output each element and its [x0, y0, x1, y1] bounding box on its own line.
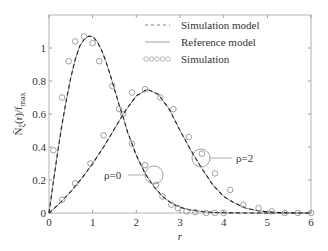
simulation-point — [212, 171, 218, 177]
y-tick-label: 0 — [41, 207, 47, 219]
annotation-rho0: ρ=0 — [104, 166, 163, 184]
simulation-point — [199, 151, 205, 157]
reference-curve — [49, 89, 311, 213]
plot-area: 012345600.20.40.60.81 — [32, 15, 314, 228]
simulation-point — [90, 40, 96, 46]
simulation-point — [59, 95, 65, 101]
simulation-point — [142, 162, 148, 168]
y-tick-label: 0.6 — [32, 108, 46, 120]
simulation-point — [186, 134, 192, 140]
simulation-model-curve — [49, 89, 311, 213]
x-tick-label: 2 — [134, 216, 140, 228]
x-tick-label: 1 — [90, 216, 96, 228]
simulation-point — [66, 58, 72, 64]
simulation-point — [59, 197, 65, 203]
simulation-point — [129, 90, 135, 96]
y-tick-label: 0.4 — [32, 141, 46, 153]
simulation-model-curve — [49, 36, 311, 213]
legend-simulation-marker — [144, 57, 170, 61]
svg-text:ρ=0: ρ=0 — [104, 169, 122, 181]
x-tick-label: 0 — [46, 216, 52, 228]
legend-simulation-model: Simulation model — [181, 19, 260, 31]
y-tick-label: 0.2 — [32, 174, 46, 186]
y-axis-label: N̄ξ(r)/fmax — [12, 92, 27, 135]
x-tick-label: 6 — [308, 216, 314, 228]
x-tick-label: 4 — [221, 216, 227, 228]
simulation-point — [96, 58, 102, 64]
legend: Simulation model Reference model Simulat… — [144, 19, 260, 65]
svg-text:ρ=2: ρ=2 — [236, 152, 253, 164]
simulation-point — [101, 133, 107, 139]
simulation-point — [110, 83, 116, 89]
simulation-point — [227, 187, 233, 193]
x-axis-label: r — [178, 230, 183, 242]
x-tick-label: 3 — [177, 216, 183, 228]
reference-curve — [49, 36, 311, 213]
y-tick-label: 1 — [41, 42, 47, 54]
annotation-rho2: ρ=2 — [192, 149, 253, 167]
simulation-point — [171, 106, 177, 112]
simulation-point — [256, 205, 262, 211]
x-tick-label: 5 — [265, 216, 271, 228]
simulation-point — [51, 148, 57, 154]
svg-text:N̄ξ(r)/fmax: N̄ξ(r)/fmax — [12, 92, 27, 135]
legend-reference-model: Reference model — [181, 36, 256, 48]
simulation-point — [81, 34, 87, 40]
simulation-point — [72, 39, 78, 45]
legend-simulation: Simulation — [181, 53, 230, 65]
plot-frame — [49, 15, 311, 213]
chart: 012345600.20.40.60.81 N̄ξ(r)/fmax r Simu… — [0, 0, 328, 251]
y-tick-label: 0.8 — [32, 75, 46, 87]
